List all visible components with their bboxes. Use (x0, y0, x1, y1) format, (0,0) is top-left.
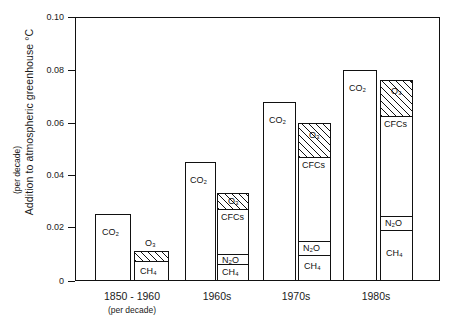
bar-label-1850-1960-ch4: CH₄ (140, 267, 157, 276)
bar-label-1980s-ch4: CH₄ (386, 249, 403, 258)
bar-label-1960s-ch4: CH₄ (222, 268, 239, 277)
segment-1850-1960-o3 (134, 251, 169, 262)
y-tick-label-0: 0 (4, 277, 64, 286)
x-axis-label-1980s: 1980s (311, 290, 441, 302)
bar-label-1970s-n2o: N₂O (303, 244, 320, 253)
greenhouse-contribution-bar-chart: Addition to atmospheric greenhouse °C (p… (0, 0, 453, 329)
bar-label-1970s-o3: O₃ (309, 131, 320, 140)
y-tick-label-0.10: 0.10 (4, 13, 64, 22)
y-tick-mark-0.08 (68, 70, 75, 71)
y-tick-label-0.06: 0.06 (4, 119, 64, 128)
bar-label-1970s-cfcs: CFCs (302, 161, 325, 170)
y-tick-label-0.04: 0.04 (4, 171, 64, 180)
bar-label-1980s-o3: O₃ (391, 87, 402, 96)
segment-1980s-cfcs (380, 116, 413, 217)
bar-label-1980s-co2: CO₂ (349, 84, 366, 93)
bar-label-1850-1960-o3: O₃ (145, 239, 156, 248)
y-axis-subtitle-text: (per decade) (12, 146, 22, 194)
y-tick-mark-0.10 (68, 17, 75, 18)
bar-label-1970s-ch4: CH₄ (304, 262, 321, 271)
y-tick-mark-0 (68, 281, 75, 282)
bar-label-1960s-co2: CO₂ (190, 176, 207, 185)
y-tick-mark-0.04 (68, 175, 75, 176)
bar-label-1960s-n2o: N₂O (222, 256, 239, 265)
bar-label-1970s-co2: CO₂ (269, 116, 286, 125)
bar-1970s-co2 (263, 102, 296, 281)
bar-label-1850-1960-co2: CO₂ (102, 228, 119, 237)
y-tick-label-0.02: 0.02 (4, 223, 64, 232)
y-tick-mark-0.02 (68, 227, 75, 228)
x-axis-sublabel-1850-1960: (per decade) (67, 305, 197, 315)
bar-label-1980s-cfcs: CFCs (384, 120, 407, 129)
segment-1970s-o3 (298, 123, 331, 158)
bar-1850-1960-co2 (95, 214, 131, 281)
y-tick-label-0.08: 0.08 (4, 66, 64, 75)
bar-1980s-co2 (343, 70, 377, 281)
y-tick-mark-0.06 (68, 123, 75, 124)
bar-label-1980s-n2o: N₂O (385, 219, 402, 228)
bar-label-1960s-o3: O₃ (228, 197, 239, 206)
bar-label-1960s-cfcs: CFCs (221, 213, 244, 222)
